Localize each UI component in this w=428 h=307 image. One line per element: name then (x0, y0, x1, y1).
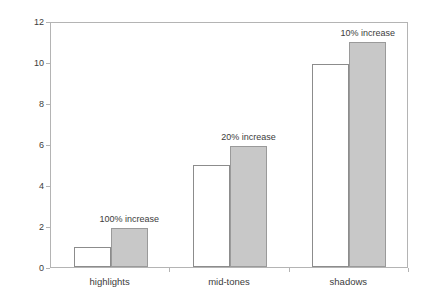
x-tick-label-shadows: shadows (330, 276, 368, 287)
x-tick-mark (408, 268, 409, 272)
plot-area: 100% increase20% increase10% increase (50, 22, 408, 268)
bar-chart: 024681012 units of exposure 100% increas… (0, 0, 428, 307)
x-axis: highlightsmid-tonesshadows (50, 268, 408, 307)
bar-highlights-after (111, 228, 148, 267)
bar-mid-tones-before (193, 165, 230, 268)
bar-mid-tones-after (230, 146, 267, 267)
y-tick-label: 8 (18, 99, 44, 109)
x-tick-mark (169, 268, 170, 272)
y-axis: 024681012 (0, 0, 50, 307)
annotation-shadows: 10% increase (341, 28, 396, 38)
y-tick-label: 10 (18, 58, 44, 68)
y-tick-label: 6 (18, 140, 44, 150)
x-tick-label-highlights: highlights (90, 276, 130, 287)
bar-shadows-before (312, 64, 349, 267)
y-tick-label: 12 (18, 17, 44, 27)
y-tick-label: 2 (18, 222, 44, 232)
y-tick-label: 4 (18, 181, 44, 191)
bar-shadows-after (349, 42, 386, 268)
y-tick-label: 0 (18, 263, 44, 273)
x-tick-mark (289, 268, 290, 272)
x-tick-label-mid-tones: mid-tones (208, 276, 250, 287)
annotation-mid-tones: 20% increase (221, 132, 276, 142)
bar-highlights-before (74, 247, 111, 268)
annotation-highlights: 100% increase (99, 214, 159, 224)
